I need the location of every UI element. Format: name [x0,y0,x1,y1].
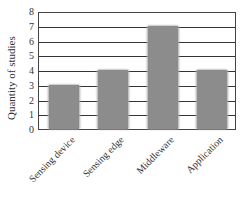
bar [197,70,227,129]
bar [49,85,79,129]
x-tick-label: Sensing device [26,134,76,184]
x-tick-label: Sensing edge [81,134,126,179]
y-tick-label: 2 [22,96,34,106]
y-axis-label: Quantity of studies [5,36,17,120]
bar [98,70,128,129]
y-tick-label: 6 [22,37,34,47]
y-tick-label: 7 [22,22,34,32]
x-tick-label: Middleware [134,134,176,176]
y-tick-label: 4 [22,66,34,76]
y-tick-label: 8 [22,7,34,17]
x-tick-label: Application [184,134,225,175]
gridline [39,56,235,57]
plot-area [38,12,236,130]
y-tick-label: 3 [22,81,34,91]
bar [148,26,178,129]
gridline [39,42,235,43]
bar-chart: Quantity of studies 012345678 Sensing de… [0,0,248,197]
gridline [39,27,235,28]
y-tick-label: 5 [22,51,34,61]
y-tick-label: 1 [22,110,34,120]
y-tick-label: 0 [22,125,34,135]
